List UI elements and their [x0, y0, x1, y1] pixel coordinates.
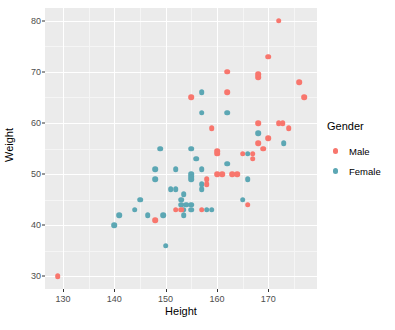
data-point-male [255, 72, 261, 78]
data-point-male [255, 120, 261, 126]
x-tick-mark [268, 289, 269, 292]
data-point-female [188, 207, 194, 213]
y-tick-label: 30 [19, 272, 41, 281]
data-point-male [209, 125, 215, 131]
gridline-vertical-minor [140, 8, 141, 289]
gridline-horizontal-minor [45, 97, 317, 98]
gridline-horizontal [45, 276, 317, 277]
data-point-female [153, 176, 159, 182]
legend-title: Gender [327, 120, 395, 132]
x-tick-mark [114, 289, 115, 292]
data-point-male [280, 120, 286, 126]
data-point-female [181, 212, 187, 218]
data-point-female [145, 212, 151, 218]
data-point-female [163, 243, 169, 249]
x-tick-label: 170 [253, 295, 283, 304]
y-tick-label: 80 [19, 16, 41, 25]
gridline-vertical-minor [89, 8, 90, 289]
data-point-male [245, 202, 251, 208]
data-point-male [204, 181, 210, 187]
gridline-vertical-minor [243, 8, 244, 289]
gridline-vertical-minor [294, 8, 295, 289]
legend-item-female[interactable]: Female [327, 161, 395, 181]
y-axis-title-text: Weight [3, 128, 15, 162]
data-point-female [199, 90, 205, 96]
data-point-female [199, 166, 205, 172]
x-tick-mark [217, 289, 218, 292]
gridline-horizontal-minor [45, 251, 317, 252]
data-point-female [153, 166, 159, 172]
x-tick-mark [63, 289, 64, 292]
data-point-female [137, 197, 143, 203]
gridline-vertical [63, 8, 64, 289]
data-point-female [255, 130, 261, 136]
data-point-male [255, 141, 261, 147]
legend-item-male[interactable]: Male [327, 141, 395, 161]
legend: Gender MaleFemale [327, 120, 395, 181]
x-tick-label: 130 [48, 295, 78, 304]
legend-swatch-female [333, 168, 339, 174]
data-point-female [281, 141, 287, 147]
data-point-male [250, 156, 256, 162]
x-tick-label: 140 [99, 295, 129, 304]
data-point-male [260, 146, 266, 152]
data-point-female [181, 192, 187, 198]
data-point-male [301, 95, 307, 101]
data-point-female [240, 197, 246, 203]
data-point-female [158, 146, 164, 152]
data-point-female [224, 110, 230, 116]
data-point-female [209, 207, 215, 213]
data-point-male [235, 171, 241, 177]
data-point-male [199, 207, 205, 213]
data-point-female [173, 166, 179, 172]
data-point-female [194, 156, 200, 162]
y-tick-label: 40 [19, 221, 41, 230]
data-point-female [245, 176, 251, 182]
gridline-horizontal [45, 225, 317, 226]
scatter-chart: Weight 304050607080 130140150160170 Heig… [0, 0, 395, 330]
data-point-female [111, 222, 117, 228]
data-point-female [199, 187, 205, 193]
data-point-female [132, 207, 138, 213]
data-point-female [188, 146, 194, 152]
data-point-female [188, 171, 194, 177]
y-axis-title: Weight [0, 0, 18, 290]
gridline-horizontal [45, 174, 317, 175]
data-point-male [214, 148, 220, 154]
legend-key [327, 163, 344, 180]
data-point-male [178, 207, 184, 213]
x-tick-mark [166, 289, 167, 292]
x-axis-title: Height [45, 305, 317, 317]
plot-panel [45, 8, 317, 289]
gridline-vertical [268, 8, 269, 289]
data-point-male [153, 217, 159, 223]
data-point-female [117, 212, 123, 218]
data-point-male [188, 95, 194, 101]
data-point-male [296, 79, 302, 85]
data-point-female [199, 110, 205, 116]
x-tick-label: 160 [202, 295, 232, 304]
y-tick-label: 60 [19, 118, 41, 127]
gridline-vertical [114, 8, 115, 289]
data-point-male [276, 18, 282, 24]
data-point-male [265, 135, 271, 141]
y-axis-ticks: 304050607080 [17, 0, 41, 330]
gridline-horizontal [45, 72, 317, 73]
data-point-male [240, 151, 246, 157]
legend-entries: MaleFemale [327, 141, 395, 181]
gridline-horizontal-minor [45, 46, 317, 47]
data-point-female [224, 161, 230, 167]
data-point-female [160, 212, 166, 218]
y-tick-label: 50 [19, 170, 41, 179]
data-point-female [173, 187, 179, 193]
data-point-male [286, 125, 292, 131]
legend-label: Female [349, 166, 381, 177]
data-point-male [55, 273, 61, 279]
data-point-male [224, 69, 230, 75]
data-point-male [224, 90, 230, 96]
data-point-male [219, 171, 225, 177]
x-tick-label: 150 [151, 295, 181, 304]
legend-label: Male [349, 146, 370, 157]
y-tick-label: 70 [19, 67, 41, 76]
legend-swatch-male [333, 148, 339, 154]
